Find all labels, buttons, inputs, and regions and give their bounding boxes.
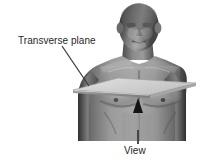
transverse-plane-figure: Transverse plane View	[0, 0, 212, 164]
anatomy-illustration	[0, 0, 212, 164]
transverse-plane-label: Transverse plane	[18, 35, 96, 46]
view-label: View	[124, 145, 146, 156]
